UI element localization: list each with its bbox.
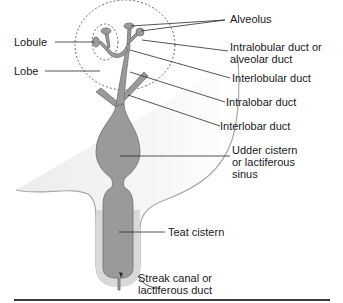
label-teat-cistern: Teat cistern — [168, 226, 224, 238]
label-streak-canal-line2: lactiferous duct — [138, 284, 212, 296]
label-lobe: Lobe — [14, 65, 38, 77]
label-lobule: Lobule — [14, 36, 47, 48]
label-interlobular: Interlobular duct — [232, 72, 311, 84]
label-udder-cistern-line1: Udder cistern — [232, 144, 297, 156]
label-udder-cistern-line2: or lactiferous — [232, 156, 295, 168]
label-interlobar: Interlobar duct — [220, 120, 290, 132]
label-udder-cistern-line3: sinus — [232, 168, 258, 180]
label-intralobar: Intralobar duct — [226, 96, 296, 108]
label-intralobular-line1: Intralobular duct or — [230, 41, 322, 53]
label-intralobular-line2: alveolar duct — [230, 53, 292, 65]
label-alveolus: Alveolus — [230, 13, 272, 25]
label-streak-canal-line1: Streak canal or — [138, 272, 212, 284]
